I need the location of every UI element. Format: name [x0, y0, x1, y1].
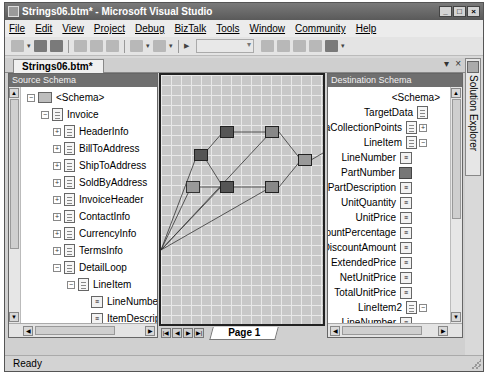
expand-icon[interactable]: +	[53, 162, 61, 170]
object-browser-icon[interactable]	[325, 40, 338, 52]
minimize-button[interactable]: _	[439, 6, 452, 17]
toolbar-options-icon[interactable]: ▾	[341, 42, 345, 50]
expand-icon[interactable]: +	[53, 196, 61, 204]
scroll-down-icon[interactable]: ▼	[451, 312, 461, 322]
schema-folder-icon	[38, 92, 52, 103]
menu-biztalk[interactable]: BizTalk	[174, 23, 206, 34]
collapse-icon[interactable]: −	[419, 139, 427, 147]
tree-node[interactable]: +TermsInfo	[53, 242, 123, 259]
menu-file[interactable]: File	[9, 23, 25, 34]
redo-icon[interactable]	[153, 40, 166, 52]
expand-icon[interactable]: +	[419, 124, 427, 132]
string-functoid-a[interactable]	[186, 181, 200, 193]
maximize-button[interactable]: □	[453, 6, 466, 17]
field-icon: ≡	[91, 313, 103, 324]
document-tab[interactable]: Strings06.btm*	[13, 59, 104, 73]
solution-config-combo[interactable]	[196, 39, 254, 53]
field-icon: ≡	[400, 212, 412, 224]
first-page-button[interactable]: |◀	[161, 328, 171, 338]
window-position-icon[interactable]: ▾	[444, 58, 449, 69]
properties-icon[interactable]	[293, 40, 306, 52]
source-horizontal-scrollbar[interactable]: ◀ ▶	[9, 323, 157, 337]
menu-edit[interactable]: Edit	[35, 23, 52, 34]
menu-community[interactable]: Community	[295, 23, 346, 34]
close-document-icon[interactable]: ×	[455, 58, 461, 69]
collapse-icon[interactable]: −	[67, 281, 75, 289]
scroll-down-icon[interactable]: ▼	[9, 312, 19, 322]
tree-node[interactable]: +BillToAddress	[53, 140, 140, 157]
scroll-thumb[interactable]	[10, 99, 19, 249]
scroll-thumb[interactable]	[35, 326, 115, 335]
scroll-thumb[interactable]	[452, 99, 461, 219]
menu-debug[interactable]: Debug	[135, 23, 164, 34]
resize-grip-icon[interactable]	[471, 359, 481, 369]
expand-icon[interactable]: +	[53, 213, 61, 221]
page-tab[interactable]: Page 1	[209, 327, 279, 340]
menu-window[interactable]: Window	[250, 23, 286, 34]
menu-help[interactable]: Help	[356, 23, 377, 34]
tree-node[interactable]: −<Schema>	[27, 89, 104, 106]
expand-icon[interactable]: +	[53, 128, 61, 136]
save-all-icon[interactable]	[50, 40, 63, 52]
expand-icon[interactable]: +	[53, 247, 61, 255]
start-icon[interactable]: ▶	[184, 42, 189, 50]
collapse-icon[interactable]: −	[53, 264, 61, 272]
undo-dropdown-icon[interactable]: ▾	[146, 42, 150, 50]
expand-icon[interactable]: +	[53, 179, 61, 187]
menu-tools[interactable]: Tools	[216, 23, 239, 34]
string-functoid-b[interactable]	[220, 126, 234, 138]
menu-view[interactable]: View	[62, 23, 84, 34]
scroll-up-icon[interactable]: ▲	[451, 88, 461, 98]
collapse-icon[interactable]: −	[27, 94, 35, 102]
scroll-right-icon[interactable]: ▶	[438, 326, 448, 336]
scroll-up-icon[interactable]: ▲	[9, 88, 19, 98]
source-vertical-scrollbar[interactable]: ▲ ▼	[9, 87, 21, 323]
expand-icon[interactable]: +	[53, 230, 61, 238]
tree-node[interactable]: +ContactInfo	[53, 208, 130, 225]
last-page-button[interactable]: ▶|	[194, 328, 204, 338]
expand-icon[interactable]: +	[53, 145, 61, 153]
scroll-left-icon[interactable]: ◀	[23, 326, 33, 336]
tree-node[interactable]: ≡LineNumber	[91, 293, 157, 310]
tree-node[interactable]: +SoldByAddress	[53, 174, 147, 191]
next-page-button[interactable]: ▶	[183, 328, 193, 338]
destination-horizontal-scrollbar[interactable]: ◀ ▶	[328, 323, 462, 337]
tree-node[interactable]: ≡ItemDescripti	[91, 310, 157, 323]
scroll-left-icon[interactable]: ◀	[330, 326, 340, 336]
destination-vertical-scrollbar[interactable]: ▲ ▼	[450, 87, 462, 323]
window-title: Strings06.btm* - Microsoft Visual Studio	[22, 6, 439, 17]
close-button[interactable]: ×	[467, 6, 480, 17]
tree-node[interactable]: LineNumber≡	[342, 314, 414, 323]
toolbox-icon[interactable]	[309, 40, 322, 52]
collapse-icon[interactable]: −	[419, 304, 427, 312]
tree-node[interactable]: +CurrencyInfo	[53, 225, 136, 242]
previous-page-button[interactable]: ◀	[172, 328, 182, 338]
string-functoid-e[interactable]	[265, 181, 279, 193]
tree-node[interactable]: −Invoice	[41, 106, 99, 123]
string-functoid-d[interactable]	[265, 126, 279, 138]
cut-icon[interactable]	[74, 40, 87, 52]
new-project-dropdown-icon[interactable]: ▾	[27, 42, 31, 50]
tree-node[interactable]: +ShipToAddress	[53, 157, 146, 174]
tree-node[interactable]: −DetailLoop	[53, 259, 127, 276]
collapse-icon[interactable]: −	[41, 111, 49, 119]
undo-icon[interactable]	[130, 40, 143, 52]
solution-explorer-icon[interactable]	[277, 40, 290, 52]
tree-node[interactable]: +InvoiceHeader	[53, 191, 143, 208]
find-icon[interactable]	[261, 40, 274, 52]
tree-node[interactable]: −LineItem	[67, 276, 131, 293]
redo-dropdown-icon[interactable]: ▾	[169, 42, 173, 50]
string-functoid-c[interactable]	[220, 181, 234, 193]
save-icon[interactable]	[34, 40, 47, 52]
new-project-icon[interactable]	[11, 40, 24, 52]
mapper-grid[interactable]	[159, 73, 325, 326]
scroll-right-icon[interactable]: ▶	[145, 326, 155, 336]
tree-node[interactable]: +HeaderInfo	[53, 123, 128, 140]
search-functoid[interactable]	[194, 149, 208, 161]
scroll-thumb[interactable]	[342, 326, 422, 335]
paste-icon[interactable]	[106, 40, 119, 52]
solution-explorer-tab[interactable]: Solution Explorer	[465, 58, 481, 176]
concatenate-functoid[interactable]	[298, 154, 312, 166]
menu-project[interactable]: Project	[94, 23, 125, 34]
copy-icon[interactable]	[90, 40, 103, 52]
